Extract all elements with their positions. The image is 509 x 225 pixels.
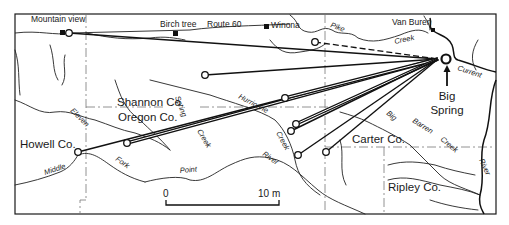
county-line-howell-south [80,200,86,214]
label-point: Point [179,164,198,175]
stream-north [86,33,185,40]
injection-point [323,149,330,156]
karst-dye-trace-map: Mountain view Birch tree Route 60 Winona… [0,0,509,225]
label-pike: Pike [329,20,346,33]
label-current: Current [456,63,483,80]
label-route-60: Route 60 [207,19,242,29]
town-marker-van-buren [431,28,435,32]
label-creek-spring: Creek [195,128,213,151]
label-howell-co: Howell Co. [20,138,76,150]
ripley-stream-1 [388,162,475,175]
scale-bar [166,200,279,205]
trace-pike-creek-dashed [315,42,438,59]
label-big: Big [385,109,400,123]
injection-point [66,30,73,37]
label-creek-barren: Creek [439,135,461,156]
label-mountain-view: Mountain view [31,14,86,24]
label-van-buren: Van Buren [392,17,432,27]
injection-point [124,140,131,147]
injection-point [282,95,289,102]
label-middle: Middle [43,162,67,177]
injection-point [295,152,302,159]
injection-point [293,121,300,128]
route-60-road [15,24,290,34]
injection-point [75,149,82,156]
label-carter-co: Carter Co. [352,133,405,145]
big-spring-marker [442,55,451,64]
west-tributary-2 [50,45,58,80]
town-marker-winona [264,24,269,29]
injection-point [312,39,319,46]
west-tributary-3 [62,55,65,85]
label-creek-north: Creek [394,33,417,46]
current-river-south [479,80,496,214]
ripley-stream-3 [430,200,478,210]
west-tributary [15,50,20,95]
trace-mountain-view [69,33,438,59]
town-marker-birch-tree [173,31,178,36]
injection-point [202,72,209,79]
arrow-up-icon [444,65,451,72]
label-eleven: Eleven [69,106,92,129]
label-birch-tree: Birch tree [160,19,197,29]
label-big-spring-1: Big [439,90,456,102]
label-big-spring-2: Spring [430,104,463,116]
scale-end-label: 10 m [258,188,280,199]
label-river-current: River [477,157,493,177]
label-oregon-co: Oregon Co. [118,111,177,123]
label-ripley-co: Ripley Co. [388,181,441,193]
injection-point [288,128,295,135]
town-marker-mountain-view [60,30,65,35]
scale-zero-label: 0 [163,188,169,199]
label-barren: Barren [411,116,435,136]
label-winona: Winona [271,20,300,30]
label-fork: Fork [114,154,132,171]
label-river-eleven-point: River [261,149,281,167]
